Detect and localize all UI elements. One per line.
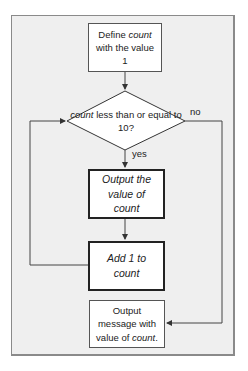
no-label: no xyxy=(190,106,201,117)
end-process-box: Output message with value of count. xyxy=(89,300,165,348)
output-value-box: Output the value of count xyxy=(88,169,165,219)
output-value-text: Output the value of count xyxy=(90,172,163,216)
end-process-text: Output message with value of count. xyxy=(90,304,164,344)
increment-box: Add 1 to count xyxy=(88,241,165,291)
start-process-text: Define count with the value 1 xyxy=(89,28,161,68)
decision-text: count less than or equal to 10? xyxy=(67,108,185,135)
increment-text: Add 1 to count xyxy=(90,251,163,280)
yes-label: yes xyxy=(132,148,147,159)
start-process-box: Define count with the value 1 xyxy=(88,23,162,72)
